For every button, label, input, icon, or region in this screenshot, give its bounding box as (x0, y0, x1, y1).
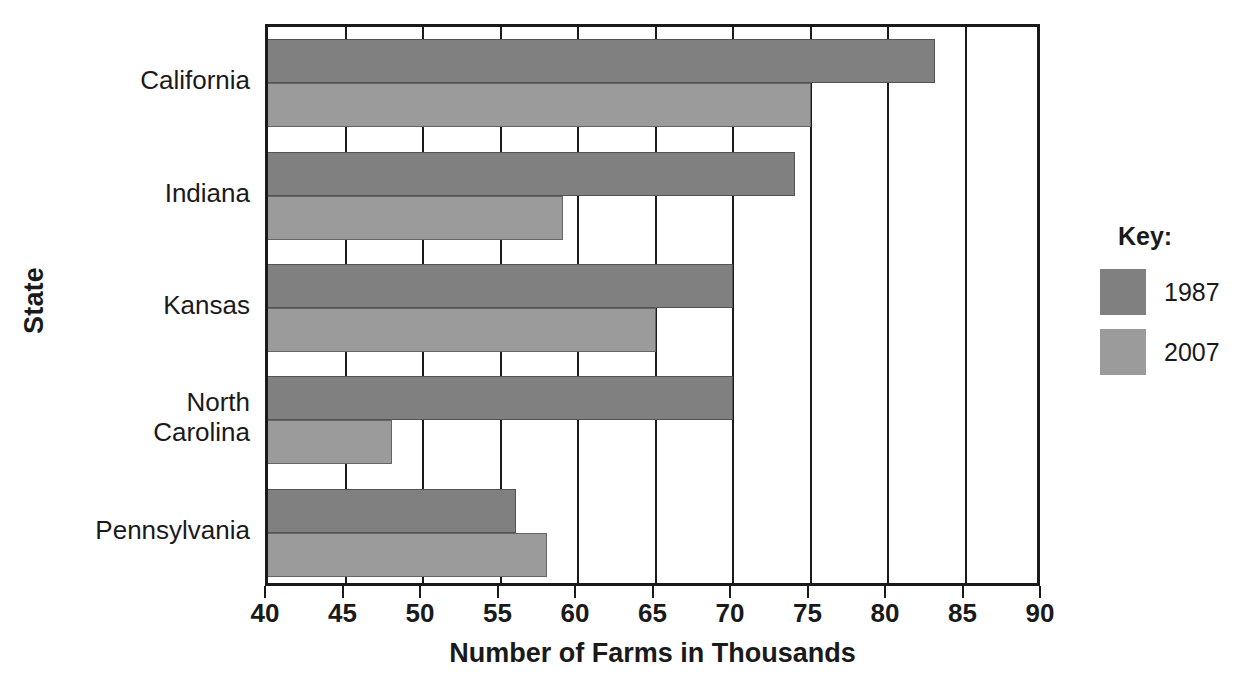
legend-swatch-1987 (1100, 269, 1146, 315)
legend-item-1987: 1987 (1100, 269, 1240, 315)
category-label-kansas: Kansas (163, 290, 250, 320)
bar-1987-north-carolina (268, 376, 733, 420)
y-axis-title-text: State (20, 266, 51, 333)
tickmark-75 (807, 586, 809, 598)
bar-1987-indiana (268, 152, 795, 196)
tickmark-90 (1039, 586, 1041, 598)
category-label-north-carolina: North Carolina (153, 387, 250, 447)
bar-2007-north-carolina (268, 420, 392, 464)
legend: Key: 19872007 (1100, 222, 1240, 389)
category-label-pennsylvania: Pennsylvania (95, 515, 250, 545)
category-axis-labels: CaliforniaIndianaKansasNorth CarolinaPen… (70, 24, 258, 586)
tickmark-65 (652, 586, 654, 598)
bar-1987-california (268, 39, 935, 83)
x-tick-label-50: 50 (406, 598, 435, 629)
x-tick-label-75: 75 (793, 598, 822, 629)
tickmark-60 (574, 586, 576, 598)
gridline-80 (887, 27, 889, 583)
tickmark-80 (884, 586, 886, 598)
plot-inner (268, 27, 1037, 583)
x-tick-label-45: 45 (328, 598, 357, 629)
legend-item-2007: 2007 (1100, 329, 1240, 375)
chart-page: State CaliforniaIndianaKansasNorth Carol… (0, 0, 1243, 689)
bar-1987-kansas (268, 264, 733, 308)
tickmark-45 (342, 586, 344, 598)
x-tick-label-55: 55 (483, 598, 512, 629)
tickmark-40 (264, 586, 266, 598)
x-tick-label-40: 40 (251, 598, 280, 629)
plot-area (265, 24, 1040, 586)
gridline-85 (965, 27, 967, 583)
bar-2007-pennsylvania (268, 533, 547, 577)
tickmark-85 (962, 586, 964, 598)
y-axis-title: State (0, 0, 70, 600)
tickmark-55 (497, 586, 499, 598)
legend-swatch-2007 (1100, 329, 1146, 375)
bar-1987-pennsylvania (268, 489, 516, 533)
bar-2007-indiana (268, 196, 563, 240)
x-tick-label-90: 90 (1026, 598, 1055, 629)
x-tick-label-65: 65 (638, 598, 667, 629)
bar-2007-california (268, 83, 811, 127)
category-label-indiana: Indiana (165, 178, 250, 208)
legend-label-1987: 1987 (1164, 278, 1220, 307)
x-tick-label-70: 70 (716, 598, 745, 629)
x-tick-label-85: 85 (948, 598, 977, 629)
x-tick-label-80: 80 (871, 598, 900, 629)
legend-label-2007: 2007 (1164, 338, 1220, 367)
x-axis-tick-labels: 4045505560657075808590 (265, 598, 1040, 632)
tickmark-70 (729, 586, 731, 598)
x-axis-tickmarks (265, 586, 1040, 598)
x-axis-title: Number of Farms in Thousands (265, 638, 1040, 669)
x-tick-label-60: 60 (561, 598, 590, 629)
legend-title: Key: (1118, 222, 1240, 251)
bar-2007-kansas (268, 308, 656, 352)
category-label-california: California (140, 65, 250, 95)
legend-rows: 19872007 (1100, 269, 1240, 375)
tickmark-50 (419, 586, 421, 598)
